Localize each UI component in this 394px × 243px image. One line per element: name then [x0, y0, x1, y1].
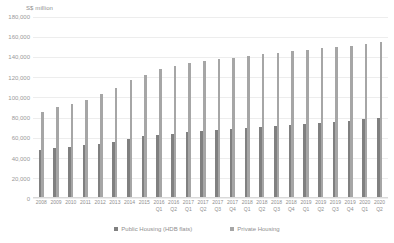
x-axis-tick-label: 2013 [108, 199, 123, 221]
bar-private-housing [100, 94, 103, 197]
bar-private-housing [188, 63, 191, 197]
y-axis-tick-label: 80,000 [12, 115, 30, 121]
bar-private-housing [321, 48, 324, 197]
bar-private-housing [71, 104, 74, 197]
x-axis-tick-label: 2018Q4 [284, 199, 299, 221]
bar-group [210, 17, 225, 197]
x-axis-tick-label: 2017Q2 [196, 199, 211, 221]
x-axis-tick-label: 2009 [49, 199, 64, 221]
x-axis-tick-label: 2019Q4 [343, 199, 358, 221]
x-axis-tick-label: 2016Q2 [166, 199, 181, 221]
bar-group [313, 17, 328, 197]
x-axis-tick-label: 2010 [63, 199, 78, 221]
x-axis-tick-label: 2020Q1 [357, 199, 372, 221]
bar-group [93, 17, 108, 197]
bar-private-housing [380, 42, 383, 197]
y-axis-tick-label: 120,000 [8, 75, 30, 81]
bar-private-housing [144, 75, 147, 197]
bar-private-housing [130, 80, 133, 197]
bar-private-housing [174, 66, 177, 197]
bar-private-housing [247, 56, 250, 197]
x-axis-tick-label: 2019Q1 [299, 199, 314, 221]
y-axis-tick-label: 100,000 [8, 95, 30, 101]
x-axis-tick-label: 2018Q3 [269, 199, 284, 221]
y-axis-tick-label: 140,000 [8, 54, 30, 60]
x-axis-tick-label: 2020Q2 [372, 199, 387, 221]
x-axis-tick-label: 2019Q2 [313, 199, 328, 221]
bar-group [269, 17, 284, 197]
bar-private-housing [41, 112, 44, 197]
y-axis-tick-label: 60,000 [12, 135, 30, 141]
bar-group [343, 17, 358, 197]
bar-group [284, 17, 299, 197]
bar-group [49, 17, 64, 197]
bar-private-housing [291, 51, 294, 197]
bar-group [122, 17, 137, 197]
x-axis-tick-label: 2017Q1 [181, 199, 196, 221]
bar-private-housing [306, 50, 309, 197]
bar-group [78, 17, 93, 197]
x-axis-tick-label: 2015 [137, 199, 152, 221]
x-axis-tick-label: 2019Q3 [328, 199, 343, 221]
x-axis-tick-label: 2018Q2 [255, 199, 270, 221]
bar-private-housing [277, 53, 280, 197]
x-axis-tick-label: 2016Q1 [152, 199, 167, 221]
x-axis-labels: 200820092010201120122013201420152016Q120… [33, 199, 388, 221]
bar-group [166, 17, 181, 197]
y-axis-tick-label: 20,000 [12, 176, 30, 182]
bar-private-housing [335, 47, 338, 197]
bar-private-housing [350, 46, 353, 197]
x-axis-line [33, 197, 388, 198]
bar-group [137, 17, 152, 197]
bar-group [34, 17, 49, 197]
legend-label: Private Housing [237, 226, 279, 232]
bar-chart: S$ million 180,000160,000140,000120,0001… [0, 0, 394, 243]
x-axis-tick-label: 2011 [78, 199, 93, 221]
bar-private-housing [159, 69, 162, 197]
bar-group [240, 17, 255, 197]
bar-group [181, 17, 196, 197]
bar-group [225, 17, 240, 197]
bar-group [299, 17, 314, 197]
bar-group [108, 17, 123, 197]
y-axis-tick-label: 160,000 [8, 34, 30, 40]
y-axis-tick-label: 40,000 [12, 156, 30, 162]
y-axis-tick-label: 0 [27, 196, 30, 202]
x-axis-tick-label: 2012 [93, 199, 108, 221]
legend-item-private-housing[interactable]: Private Housing [230, 226, 279, 232]
bar-private-housing [203, 61, 206, 197]
legend-swatch [114, 227, 118, 231]
x-axis-tick-label: 2008 [34, 199, 49, 221]
bar-private-housing [115, 88, 118, 197]
bar-group [255, 17, 270, 197]
legend-item-public-housing[interactable]: Public Housing (HDB flats) [114, 226, 192, 232]
bar-private-housing [56, 107, 59, 197]
bar-series-container [33, 17, 388, 197]
bar-group [196, 17, 211, 197]
plot-area: 180,000160,000140,000120,000100,00080,00… [33, 17, 388, 198]
bar-private-housing [262, 54, 265, 197]
legend-swatch [230, 227, 234, 231]
y-axis-title: S$ million [26, 5, 53, 11]
x-axis-tick-label: 2018Q1 [240, 199, 255, 221]
x-axis-tick-label: 2017Q4 [225, 199, 240, 221]
chart-legend: Public Housing (HDB flats)Private Housin… [0, 226, 394, 232]
x-axis-tick-label: 2014 [122, 199, 137, 221]
x-axis-tick-label: 2017Q3 [210, 199, 225, 221]
bar-group [328, 17, 343, 197]
bar-private-housing [218, 59, 221, 197]
legend-label: Public Housing (HDB flats) [121, 226, 192, 232]
bar-private-housing [85, 100, 88, 197]
y-axis-tick-label: 180,000 [8, 14, 30, 20]
bar-group [152, 17, 167, 197]
bar-group [372, 17, 387, 197]
bar-private-housing [232, 58, 235, 197]
bar-private-housing [365, 44, 368, 197]
bar-group [63, 17, 78, 197]
bar-group [357, 17, 372, 197]
